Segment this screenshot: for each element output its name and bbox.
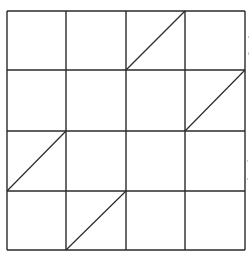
diagonal-r3-c1 bbox=[7, 131, 66, 191]
diagonal-r4-c2 bbox=[66, 191, 126, 250]
diagonal-r1-c3 bbox=[126, 11, 185, 70]
diagonal-r2-c4 bbox=[185, 70, 245, 131]
grid-lines bbox=[7, 11, 245, 250]
grid-diagram bbox=[0, 0, 250, 262]
scan-specks bbox=[247, 36, 249, 180]
